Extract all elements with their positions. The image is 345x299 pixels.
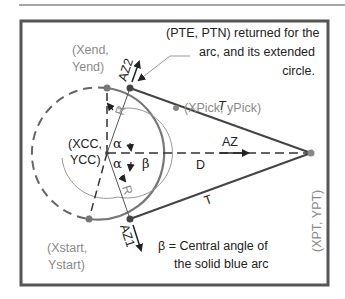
pte-label-line3: circle.	[282, 64, 315, 78]
point-center	[105, 151, 109, 155]
xcc-label-line1: (XCC,	[68, 137, 102, 151]
alpha-top-label: α	[113, 136, 122, 151]
az-label: AZ	[222, 135, 238, 149]
d-label: D	[196, 158, 205, 172]
xpt-label: (XPT, YPT)	[310, 190, 324, 252]
pte-label-line2: arc, and its extended	[199, 45, 315, 59]
point-xend	[104, 85, 111, 92]
xend-label-line1: (Xend,	[72, 43, 109, 57]
xstart-label-line1: (Xstart,	[47, 241, 87, 255]
xstart-label-line2: Ystart)	[48, 258, 85, 272]
arc-geometry-diagram: (PTE, PTN) returned for the arc, and its…	[0, 0, 345, 299]
point-xpick	[173, 105, 179, 111]
point-pte-bottom	[127, 216, 134, 223]
xend-label-line2: Yend)	[72, 60, 104, 74]
beta-label: β	[142, 156, 150, 171]
xcc-label-line2: YCC)	[70, 153, 101, 167]
point-xpt	[308, 150, 315, 157]
alpha-bottom-label: α	[113, 156, 122, 171]
point-pte-top	[127, 85, 134, 92]
point-xstart	[86, 216, 93, 223]
note-line1: β = Central angle of	[158, 239, 268, 253]
note-line2: the solid blue arc	[174, 257, 269, 271]
pte-label-line1: (PTE, PTN) returned for the	[166, 26, 320, 40]
